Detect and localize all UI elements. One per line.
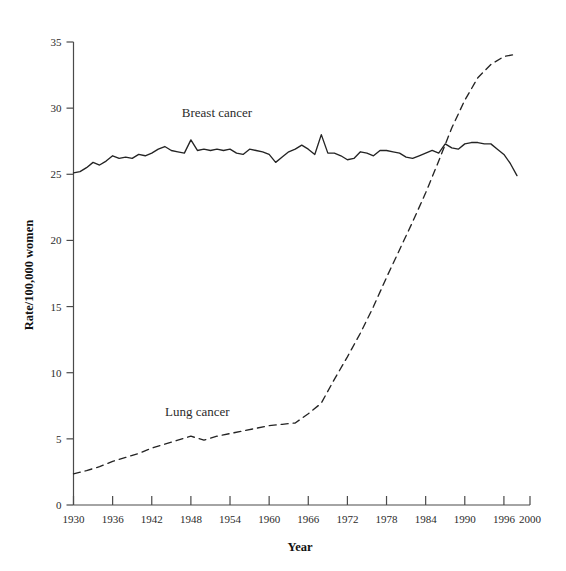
y-tick-label: 15 [51,301,63,313]
y-axis-ticks: 05101520253035 [51,36,74,511]
x-tick-label: 1984 [415,513,438,525]
y-tick-label: 25 [51,168,63,180]
x-tick-label: 1990 [454,513,477,525]
series-label-lung-cancer: Lung cancer [165,404,230,419]
data-series-group [74,54,517,474]
chart-figure: 05101520253035 1930193619421948195419601… [0,0,566,571]
series-line-breast-cancer [74,135,517,176]
cancer-rates-line-chart: 05101520253035 1930193619421948195419601… [0,0,566,571]
x-axis-ticks: 1930193619421948195419601966197219781984… [63,496,542,525]
x-tick-label: 1942 [141,513,163,525]
x-tick-label: 1966 [297,513,320,525]
x-tick-label: 1948 [180,513,203,525]
x-tick-label: 1972 [336,513,358,525]
x-tick-label: 1960 [258,513,281,525]
x-axis-title: Year [288,540,313,554]
series-line-lung-cancer [74,54,517,474]
y-tick-label: 0 [56,499,62,511]
x-tick-label: 1930 [63,513,86,525]
y-tick-label: 5 [56,433,62,445]
y-axis-title: Rate/100,000 women [22,220,36,330]
y-tick-label: 35 [51,36,63,48]
x-tick-label: 1978 [376,513,399,525]
axes [74,42,531,505]
y-tick-label: 30 [51,102,63,114]
y-tick-label: 20 [51,234,63,246]
series-label-breast-cancer: Breast cancer [182,105,253,120]
y-tick-label: 10 [51,367,63,379]
x-tick-label: 1954 [219,513,242,525]
x-tick-label: 2000 [519,513,542,525]
x-tick-label: 1996 [493,513,516,525]
x-tick-label: 1936 [102,513,125,525]
